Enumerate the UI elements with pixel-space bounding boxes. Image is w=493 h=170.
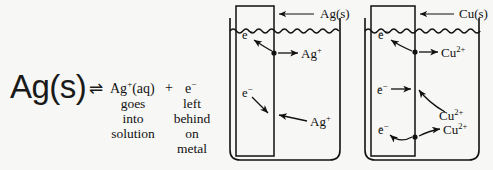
electron-label-middle: e− — [377, 82, 388, 97]
ion-charge: 2+ — [458, 121, 467, 131]
silver-electrode-label: Ag(s) — [320, 7, 350, 20]
product-ion-base: Ag — [110, 81, 127, 96]
ion-annotation-line-1: goes — [98, 96, 168, 111]
electron-arrow-upper — [254, 40, 272, 51]
electron-charge: − — [384, 121, 389, 131]
silver-ion-label-lower: Ag+ — [310, 114, 331, 128]
equation-reactant: Ag(s) — [10, 68, 86, 106]
ion-annotation-line-2: into — [98, 111, 168, 126]
electron-annotation-line-1: left — [162, 96, 222, 111]
electron-charge: − — [384, 26, 389, 36]
electron-arrow-lower — [252, 97, 268, 113]
dissolution-site-dot-upper — [412, 49, 417, 54]
ion-base: Ag — [310, 114, 326, 129]
electron-charge: − — [248, 26, 253, 36]
silver-half-cell: Ag(s) e− e− Ag+ Ag+ — [222, 0, 354, 170]
ion-base: Cu — [443, 122, 458, 137]
ion-base: Ag — [301, 46, 317, 61]
copper-ion-label-lower: Cu2+ — [443, 122, 467, 136]
ion-annotation-line-3: solution — [98, 126, 168, 141]
equilibrium-arrow-icon: ⇌ — [89, 78, 103, 98]
equation-plus-sign: + — [165, 80, 173, 96]
electron-charge: − — [248, 84, 253, 94]
ion-charge: 2+ — [454, 107, 463, 117]
copper-electrode-label: Cu(s) — [459, 7, 488, 20]
ion-arrow-lower — [279, 115, 307, 121]
equation-product-ion: Ag+(aq) — [110, 79, 155, 97]
figure-canvas: Ag(s) ⇌ Ag+(aq) + e− goes into solution … — [0, 0, 493, 170]
electron-base: e — [377, 83, 383, 97]
copper-ion-label-upper: Cu2+ — [441, 45, 465, 59]
ion-arrow-lower — [419, 129, 440, 136]
electron-charge: − — [383, 81, 388, 91]
dissolution-site-dot-lower — [412, 134, 417, 139]
electron-annotation: left behind on metal — [162, 96, 222, 156]
ion-charge: + — [326, 113, 331, 123]
electron-base: e — [378, 28, 384, 42]
silver-ion-label-upper: Ag+ — [301, 46, 322, 60]
electron-label-lower: e− — [242, 85, 253, 100]
electron-base: e — [378, 123, 384, 137]
electron-arrow-upper — [391, 40, 412, 51]
ion-annotation: goes into solution — [98, 96, 168, 141]
half-reaction-equation: Ag(s) ⇌ Ag+(aq) + e− goes into solution … — [10, 60, 225, 155]
electron-label-lower: e− — [378, 122, 389, 137]
ion-base: Cu — [441, 45, 456, 60]
copper-half-cell: Cu(s) e− e− e− Cu2+ Cu2+ Cu2+ — [359, 0, 493, 170]
electron-annotation-line-2: behind — [162, 111, 222, 126]
electron-annotation-line-4: metal — [162, 141, 222, 156]
ion-charge: 2+ — [456, 44, 465, 54]
electron-label-upper: e− — [378, 27, 389, 42]
electron-label-upper: e− — [242, 27, 253, 42]
electron-annotation-line-3: on — [162, 126, 222, 141]
dissolution-site-dot-upper — [271, 50, 276, 55]
ion-charge: + — [317, 45, 322, 55]
electron-arrow-lower — [390, 135, 412, 140]
product-ion-state: (aq) — [132, 81, 155, 96]
equation-product-electron: e− — [185, 79, 196, 97]
product-electron-charge: − — [191, 79, 196, 89]
